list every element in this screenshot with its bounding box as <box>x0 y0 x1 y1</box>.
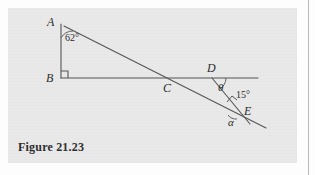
angle-label-62: 62° <box>65 33 79 43</box>
point-label-d: D <box>207 62 216 74</box>
point-label-a: A <box>47 16 54 28</box>
angle-label-alpha: α <box>228 117 234 128</box>
angle-label-theta: θ <box>218 82 223 93</box>
figure-page: A B C D E 62° θ 15° α Figure 21.23 <box>0 0 315 175</box>
point-label-e: E <box>244 105 251 117</box>
point-label-c: C <box>163 82 171 94</box>
point-label-b: B <box>46 72 53 84</box>
segment-a-transversal <box>64 26 266 128</box>
right-angle-marker-b <box>61 71 68 78</box>
figure-caption: Figure 21.23 <box>18 140 84 155</box>
angle-label-15: 15° <box>236 90 250 100</box>
